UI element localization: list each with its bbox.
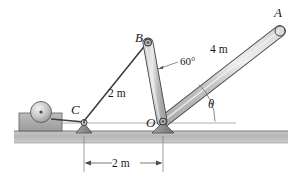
angle-60-leader <box>158 62 178 69</box>
pin-b-inner <box>147 41 150 44</box>
label-point-a: A <box>273 5 282 20</box>
ground-band <box>14 131 288 143</box>
mechanics-figure: A B C O 4 m 2 m 60° θ 2 m <box>0 0 302 182</box>
rod-oa <box>164 26 285 121</box>
dimension-arrow-left <box>85 160 92 165</box>
pin-o-inner <box>162 120 164 122</box>
label-rod-oa-length: 4 m <box>210 43 228 55</box>
label-point-c: C <box>71 102 80 117</box>
dimension-arrow-right <box>156 160 163 165</box>
label-angle-60: 60° <box>180 55 195 67</box>
figure-canvas: A B C O 4 m 2 m 60° θ 2 m <box>0 0 302 182</box>
label-angle-theta: θ <box>208 97 214 111</box>
label-span-co: 2 m <box>112 157 130 169</box>
cable-c-to-b <box>84 43 147 121</box>
label-bar-ob-length: 2 m <box>108 87 126 99</box>
roller-center-dot <box>39 110 42 113</box>
bar-ob <box>145 39 162 121</box>
label-point-b: B <box>135 30 143 45</box>
label-point-o: O <box>146 115 156 130</box>
ground <box>14 131 288 143</box>
